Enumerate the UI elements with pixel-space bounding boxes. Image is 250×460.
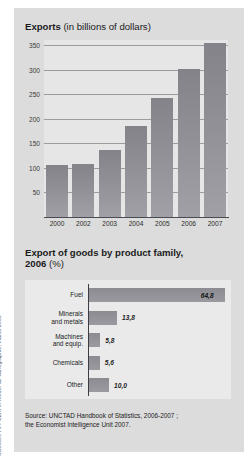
y-axis-tick-label: 200 [29,115,40,122]
chart1-plot-area: 50100150200250300350 [44,40,228,217]
bar-row: Other10,0 [25,375,231,395]
source-note: Source: UNCTAD Handbook of Statistics, 2… [25,412,237,429]
x-axis-tick-label: 2002 [72,220,94,227]
chart1-title: Exports (in billions of dollars) [25,21,151,33]
chart2-title-bold-line2: 2006 [25,258,46,269]
bar-row: Mineralsand metals13,8 [25,308,231,328]
chart1-x-axis-line [44,217,229,218]
bar [178,69,200,217]
chart2-title: Export of goods by product family, 2006 … [25,247,183,270]
x-axis-tick-label: 2004 [125,220,147,227]
bar-category-label: Fuel [25,291,88,298]
bar-value-label: 10,0 [114,382,127,389]
chart1-title-bold: Exports [25,21,61,32]
bar [88,378,109,392]
x-axis-tick-label: 2005 [151,220,173,227]
y-axis-tick-label: 250 [29,91,40,98]
bar-category-label: Chemicals [25,359,88,366]
chart1-x-tick-labels: 2000200220032004200520062007 [44,220,228,227]
bar-category-label: Machinesand equip. [25,333,88,348]
product-family-bar-chart: Export of goods by product family, 2006 … [14,240,244,452]
bar-value-label: 64,8 [201,292,214,299]
bar [125,126,147,217]
x-axis-tick-label: 2006 [178,220,200,227]
bar [88,333,100,347]
chart1-title-light: (in billions of dollars) [61,21,151,32]
bar-row: Chemicals5,6 [25,353,231,373]
bar [204,43,226,217]
source-line-1: Source: UNCTAD Handbook of Statistics, 2… [25,412,237,421]
x-axis-tick-label: 2003 [99,220,121,227]
bar-row: Fuel64,8 [25,285,231,305]
credit-strip: Sciences Po / CERI et Atelier de cartogr… [0,0,14,460]
bar-category-label: Mineralsand metals [25,310,88,325]
y-axis-tick-label: 350 [29,41,40,48]
exports-bar-chart: Exports (in billions of dollars) 5010015… [14,8,244,240]
y-axis-tick-label: 50 [33,189,40,196]
bar [151,98,173,217]
bar [88,311,117,325]
infographic-panel: Exports (in billions of dollars) 5010015… [14,8,244,452]
bar-row: Machinesand equip.5,8 [25,330,231,350]
y-axis-tick-label: 100 [29,164,40,171]
y-axis-tick-label: 150 [29,140,40,147]
bar-value-label: 5,8 [105,337,114,344]
bar [46,165,68,217]
bar [99,150,121,217]
x-axis-tick-label: 2007 [204,220,226,227]
bar [88,356,100,370]
chart2-baseline [88,284,89,396]
x-axis-tick-label: 2000 [46,220,68,227]
chart2-bar-rows: Fuel64,8Mineralsand metals13,8Machinesan… [25,280,231,399]
credit-text: Sciences Po / CERI et Atelier de cartogr… [0,315,2,456]
bar-value-label: 13,8 [122,314,135,321]
chart1-bars [44,40,228,217]
bar [72,164,94,217]
y-axis-tick-label: 300 [29,66,40,73]
chart2-plot-area: Fuel64,8Mineralsand metals13,8Machinesan… [25,280,231,399]
bar-value-label: 5,6 [105,359,114,366]
bar-category-label: Other [25,381,88,388]
source-line-2: the Economist Intelligence Unit 2007. [25,421,237,430]
chart2-title-light: (%) [46,258,64,269]
chart2-title-bold-line1: Export of goods by product family, [25,247,183,258]
